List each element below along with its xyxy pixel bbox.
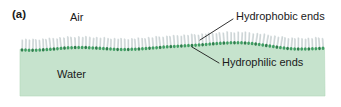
surfactant-molecule — [233, 33, 236, 45]
hydrophilic-head — [77, 46, 80, 50]
surfactant-molecule — [304, 39, 307, 51]
panel-letter: (a) — [12, 9, 26, 21]
surfactant-molecule — [109, 39, 112, 51]
surfactant-molecule — [293, 39, 296, 51]
label-water: Water — [57, 69, 86, 80]
surfactant-molecule — [66, 37, 69, 50]
surfactant-molecule — [230, 32, 233, 44]
surfactant-molecule — [127, 40, 130, 52]
hydrophilic-head — [293, 47, 296, 51]
surfactant-molecule — [244, 32, 247, 45]
surfactant-molecule — [314, 38, 317, 51]
label-hydrophilic-ends: Hydrophilic ends — [222, 57, 303, 68]
surfactant-molecule — [311, 39, 314, 51]
surfactant-molecule — [123, 39, 126, 51]
surfactant-molecule — [237, 32, 240, 44]
surfactant-molecule — [24, 39, 27, 52]
surfactant-molecule — [81, 37, 84, 49]
label-hydrophobic-ends: Hydrophobic ends — [236, 11, 325, 22]
label-air: Air — [70, 12, 83, 23]
hydrophilic-head — [230, 41, 233, 45]
surfactant-molecule — [84, 37, 87, 50]
surfactant-molecule — [180, 36, 183, 48]
surfactant-molecule — [73, 38, 76, 50]
surfactant-molecule — [21, 40, 24, 52]
surfactant-molecule — [31, 39, 34, 52]
hydrophilic-head — [297, 47, 300, 51]
surfactant-molecule — [130, 39, 133, 51]
surfactant-molecule — [28, 40, 31, 52]
hydrophobic-tail — [36, 40, 37, 49]
surfactant-molecule — [190, 34, 193, 47]
surfactant-molecule — [113, 38, 116, 51]
surfactant-molecule — [226, 32, 229, 45]
figure-panel-a: (a) Air Water Hydrophobic ends Hydrophil… — [0, 0, 341, 107]
hydrophilic-head — [130, 48, 133, 52]
surfactant-molecule — [88, 37, 91, 49]
surfactant-molecule — [120, 38, 123, 51]
surfactant-molecule — [297, 38, 300, 51]
surfactant-molecule — [77, 37, 80, 49]
surfactant-molecule — [41, 39, 44, 52]
surfactant-molecule — [95, 37, 98, 50]
hydrophilic-head — [84, 46, 87, 50]
surfactant-molecule — [300, 39, 303, 51]
